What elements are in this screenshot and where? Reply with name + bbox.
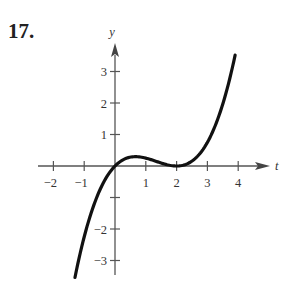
y-tick-label: −2 xyxy=(94,223,107,237)
tick-labels: ty−2−11234321−2−3 xyxy=(44,25,279,268)
x-tick-label: −2 xyxy=(44,176,57,190)
cubic-function-graph: ty−2−11234321−2−3 xyxy=(0,0,292,300)
x-tick-label: 4 xyxy=(235,176,242,190)
x-axis-label: t xyxy=(275,159,279,173)
y-axis-label: y xyxy=(107,25,115,39)
x-tick-label: 1 xyxy=(143,176,149,190)
y-tick-label: −3 xyxy=(94,254,107,268)
y-axis-arrow-icon xyxy=(111,43,119,57)
y-tick-label: 3 xyxy=(101,65,107,79)
y-tick-label: 2 xyxy=(101,97,107,111)
y-tick-label: 1 xyxy=(101,128,107,142)
x-tick-label: 2 xyxy=(173,176,179,190)
x-tick-label: −1 xyxy=(75,176,88,190)
x-tick-label: 3 xyxy=(204,176,210,190)
